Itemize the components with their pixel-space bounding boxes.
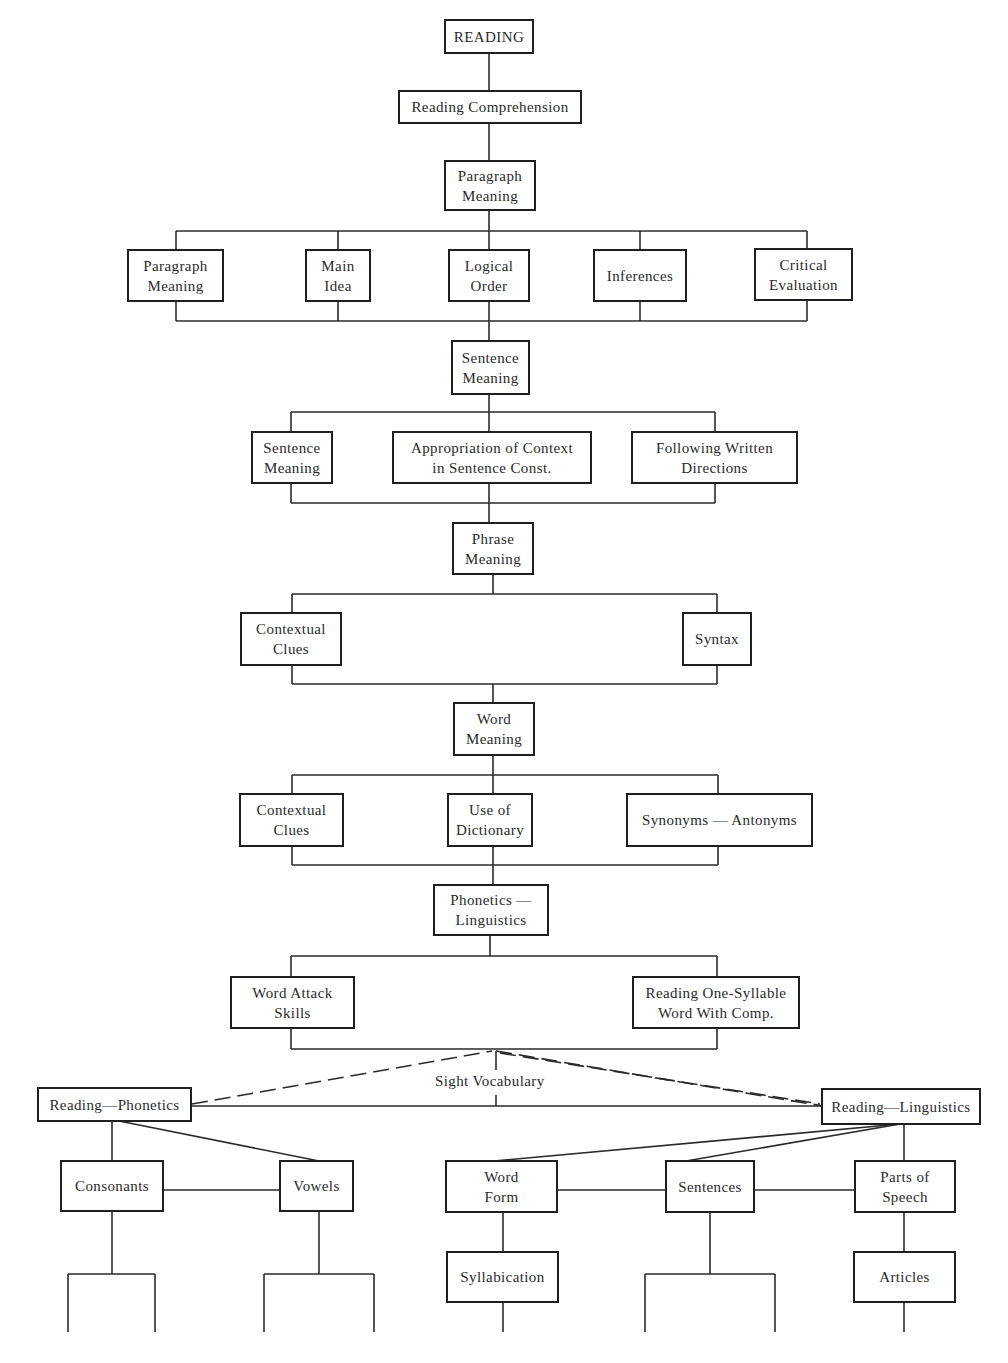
node-label: Reading One-Syllable Word With Comp. (646, 983, 787, 1023)
node-label: Reading Comprehension (411, 97, 568, 117)
node-consonants: Consonants (60, 1160, 164, 1212)
node-parts-of-speech: Parts of Speech (854, 1160, 956, 1213)
node-label: Vowels (293, 1176, 339, 1196)
node-label: Contextual Clues (257, 800, 327, 840)
node-paragraph-meaning: Paragraph Meaning (444, 160, 536, 211)
reading-skills-diagram: READING Reading Comprehension Paragraph … (0, 0, 1008, 1363)
node-label: Logical Order (465, 256, 514, 296)
node-reading-linguistics: Reading—Linguistics (821, 1088, 981, 1125)
node-paragraph-meaning-child: Paragraph Meaning (127, 249, 224, 302)
node-label: Main Idea (321, 256, 354, 296)
node-appropriation-of-context: Appropriation of Context in Sentence Con… (392, 431, 592, 484)
node-phonetics-linguistics: Phonetics — Linguistics (433, 884, 549, 936)
node-label: Word Meaning (466, 709, 522, 749)
sight-vocabulary-label: Sight Vocabulary (435, 1073, 545, 1090)
node-label: Parts of Speech (880, 1167, 929, 1207)
node-label: Synonyms — Antonyms (642, 810, 797, 830)
node-label: Sentence Meaning (462, 348, 519, 388)
node-contextual-clues-phrase: Contextual Clues (240, 612, 342, 666)
node-label: READING (454, 27, 524, 47)
node-label: Critical Evaluation (769, 255, 838, 295)
node-label: Syntax (695, 629, 739, 649)
node-label: Use of Dictionary (456, 800, 524, 840)
node-contextual-clues-word: Contextual Clues (239, 793, 344, 847)
node-label: Following Written Directions (656, 438, 773, 478)
node-reading-phonetics: Reading—Phonetics (37, 1087, 192, 1122)
node-articles: Articles (853, 1251, 956, 1303)
node-reading-comprehension: Reading Comprehension (398, 90, 582, 124)
node-label: Articles (879, 1267, 930, 1287)
node-use-of-dictionary: Use of Dictionary (447, 793, 533, 847)
node-main-idea: Main Idea (305, 249, 371, 302)
node-reading: READING (444, 19, 534, 54)
node-syntax: Syntax (682, 612, 752, 666)
node-reading-one-syllable: Reading One-Syllable Word With Comp. (632, 976, 800, 1029)
node-following-written-directions: Following Written Directions (631, 431, 798, 484)
node-syllabication: Syllabication (446, 1251, 559, 1303)
node-label: Appropriation of Context in Sentence Con… (411, 438, 573, 478)
node-label: Paragraph Meaning (143, 256, 207, 296)
node-sentences: Sentences (665, 1160, 755, 1213)
node-label: Sentences (678, 1177, 742, 1197)
node-label: Contextual Clues (256, 619, 326, 659)
node-vowels: Vowels (279, 1160, 354, 1212)
node-label: Sentence Meaning (263, 438, 320, 478)
node-label: Phrase Meaning (465, 529, 521, 569)
node-word-form: Word Form (445, 1160, 558, 1213)
node-label: Phonetics — Linguistics (450, 890, 531, 930)
node-synonyms-antonyms: Synonyms — Antonyms (626, 793, 813, 847)
node-label: Syllabication (460, 1267, 544, 1287)
node-label: Consonants (75, 1176, 149, 1196)
node-sentence-meaning-child: Sentence Meaning (251, 431, 333, 484)
node-label: Inferences (607, 266, 673, 286)
node-sentence-meaning: Sentence Meaning (451, 340, 530, 395)
node-word-meaning: Word Meaning (453, 702, 535, 756)
node-critical-evaluation: Critical Evaluation (754, 248, 853, 301)
node-label: Paragraph Meaning (458, 166, 522, 206)
node-inferences: Inferences (593, 249, 687, 302)
node-label: Word Attack Skills (252, 983, 332, 1023)
node-label: Reading—Linguistics (831, 1097, 970, 1117)
node-label: Reading—Phonetics (49, 1095, 179, 1115)
node-logical-order: Logical Order (448, 249, 530, 302)
node-word-attack-skills: Word Attack Skills (230, 976, 355, 1029)
node-phrase-meaning: Phrase Meaning (452, 522, 534, 575)
node-label: Word Form (484, 1167, 519, 1207)
